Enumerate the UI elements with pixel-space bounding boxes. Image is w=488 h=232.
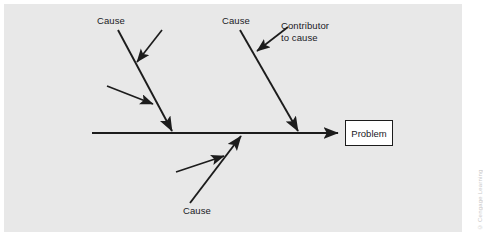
cause-bone-bottom (190, 136, 241, 203)
contributor-arrow-top-left-lower (107, 86, 153, 104)
cause-label-top-left: Cause (97, 15, 125, 26)
cause-label-top-right: Cause (222, 15, 250, 26)
contributor-arrow-top-left-upper (137, 30, 162, 62)
contributor-arrow-bottom (176, 156, 224, 172)
fishbone-diagram-canvas (0, 0, 488, 232)
contributor-to-cause-label: Contributorto cause (281, 20, 329, 43)
problem-label: Problem (346, 121, 392, 145)
cause-label-bottom: Cause (183, 205, 211, 216)
problem-box: Problem (345, 120, 393, 146)
contributor-label-line-2: to cause (281, 32, 318, 43)
cause-bone-top-right (240, 30, 298, 131)
copyright-watermark: © Cengage Learning (477, 152, 487, 230)
fishbone-diagram-page: Cause Cause Cause Contributorto cause Pr… (0, 0, 488, 232)
cause-bone-top-left (118, 30, 172, 131)
contributor-label-line-1: Contributor (281, 20, 329, 31)
